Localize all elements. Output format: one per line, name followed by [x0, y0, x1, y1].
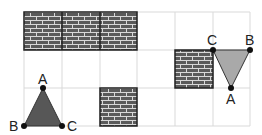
label-b-right: B	[245, 32, 254, 48]
triangle-left: A B C	[9, 71, 77, 134]
label-a-right: A	[226, 91, 236, 107]
triangle-right: C B A	[207, 32, 254, 107]
brick-wall-bottom	[100, 88, 137, 126]
brick-wall-top	[24, 12, 137, 50]
label-a-left: A	[38, 71, 48, 87]
vertex-c-left	[59, 123, 65, 129]
label-c-right: C	[207, 32, 217, 48]
vertex-b-left	[21, 123, 27, 129]
brick-wall-right	[175, 50, 213, 88]
grid-diagram: A B C C B A	[0, 0, 262, 135]
label-b-left: B	[9, 118, 18, 134]
label-c-left: C	[67, 118, 77, 134]
